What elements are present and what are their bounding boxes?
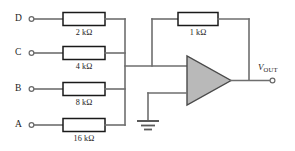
input-label-d: D [15, 14, 22, 24]
resistor-label-b: 8 kΩ [63, 99, 105, 107]
input-terminal-a[interactable] [29, 123, 34, 128]
operational-amplifier[interactable] [187, 56, 231, 105]
resistor-d-body[interactable] [63, 13, 105, 26]
input-terminal-b[interactable] [29, 87, 34, 92]
input-label-b: B [15, 84, 22, 94]
feedback-resistor-label: 1 kΩ [178, 29, 218, 37]
input-terminal-c[interactable] [29, 51, 34, 56]
input-label-a: A [15, 120, 22, 130]
resistor-c-body[interactable] [63, 47, 105, 60]
circuit-diagram: D C B A 2 kΩ 4 kΩ 8 kΩ 16 kΩ 1 kΩ VOUT [0, 0, 295, 151]
input-terminal-d[interactable] [29, 17, 34, 22]
output-terminal[interactable] [270, 78, 275, 83]
resistor-label-d: 2 kΩ [63, 29, 105, 37]
output-label: VOUT [258, 63, 278, 72]
resistor-label-c: 4 kΩ [63, 63, 105, 71]
output-label-main: V [258, 62, 264, 72]
output-label-subscript: OUT [264, 66, 278, 73]
resistor-b-body[interactable] [63, 83, 105, 96]
input-label-c: C [15, 48, 22, 58]
feedback-resistor-body[interactable] [178, 13, 218, 26]
resistor-label-a: 16 kΩ [63, 135, 105, 143]
resistor-a-body[interactable] [63, 119, 105, 132]
schematic-canvas [0, 0, 295, 151]
